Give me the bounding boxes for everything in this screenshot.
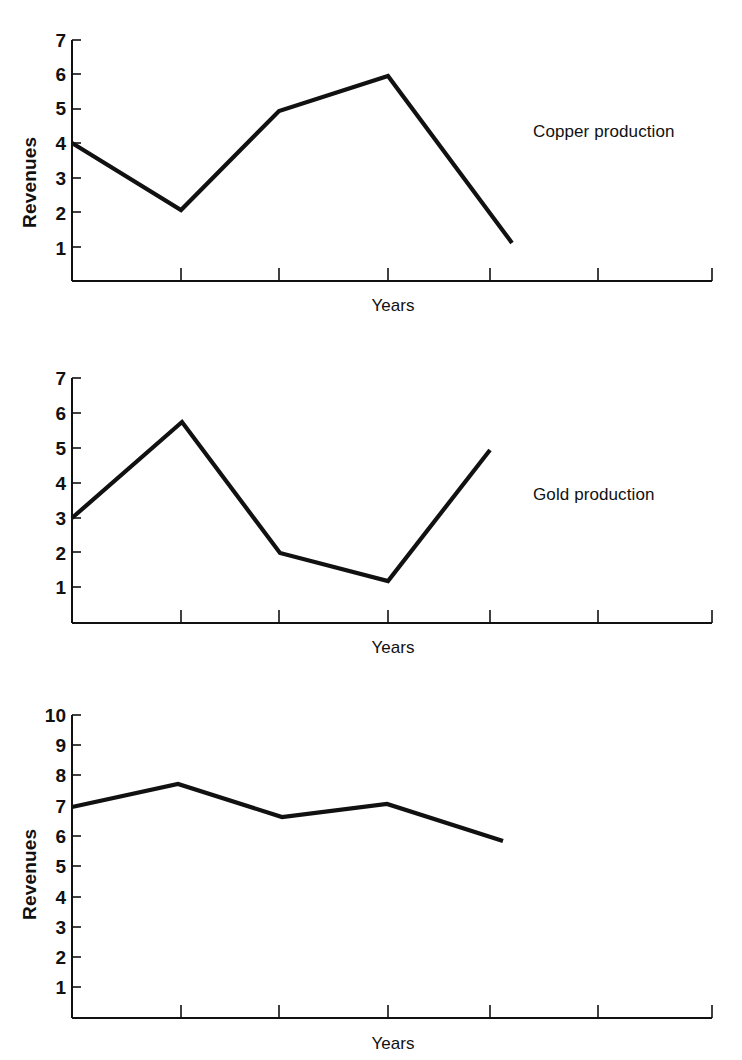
y-tick-label: 2 bbox=[55, 203, 66, 224]
x-axis-title-gold: Years bbox=[372, 638, 415, 657]
chart-panel-combined: Revenues 10 9 8 7 6 5 4 3 2 1 bbox=[0, 670, 742, 1060]
y-tick-label: 3 bbox=[55, 917, 66, 938]
y-axis-title-combined: Revenues bbox=[19, 829, 40, 920]
y-axis-title-copper: Revenues bbox=[19, 137, 40, 228]
y-tick-label: 1 bbox=[55, 577, 66, 598]
y-tick-label: 7 bbox=[55, 796, 66, 817]
x-axis-title-copper: Years bbox=[372, 296, 415, 315]
y-tick-label: 2 bbox=[55, 947, 66, 968]
y-tick-label: 10 bbox=[45, 705, 66, 726]
x-axis-title-combined: Years bbox=[372, 1034, 415, 1053]
figure-page: Revenues 7 6 5 4 3 2 1 bbox=[0, 0, 742, 1060]
series-label-copper: Copper production bbox=[533, 122, 675, 142]
y-tick-label: 1 bbox=[55, 238, 66, 259]
y-tick-label: 6 bbox=[55, 403, 66, 424]
y-tick-label: 5 bbox=[55, 438, 66, 459]
gold-chart-svg: Revenues 7 6 5 4 3 2 1 Year bbox=[0, 340, 742, 670]
y-tick-label: 6 bbox=[55, 64, 66, 85]
y-tick-label: 8 bbox=[55, 765, 66, 786]
y-tick-label: 3 bbox=[55, 168, 66, 189]
chart-panel-copper: Revenues 7 6 5 4 3 2 1 bbox=[0, 0, 742, 340]
y-tick-label: 4 bbox=[55, 133, 66, 154]
chart-panel-gold: Revenues 7 6 5 4 3 2 1 Year bbox=[0, 340, 742, 670]
data-series-copper bbox=[72, 76, 512, 243]
y-tick-label: 6 bbox=[55, 826, 66, 847]
y-tick-label: 1 bbox=[55, 977, 66, 998]
y-tick-label: 5 bbox=[55, 856, 66, 877]
y-tick-label: 9 bbox=[55, 735, 66, 756]
y-tick-label: 4 bbox=[55, 473, 66, 494]
data-series-gold bbox=[72, 422, 490, 581]
combined-chart-svg: Revenues 10 9 8 7 6 5 4 3 2 1 bbox=[0, 670, 742, 1060]
y-tick-label: 3 bbox=[55, 508, 66, 529]
copper-chart-svg: Revenues 7 6 5 4 3 2 1 bbox=[0, 0, 742, 340]
y-tick-label: 4 bbox=[55, 887, 66, 908]
y-tick-label: 5 bbox=[55, 98, 66, 119]
y-tick-label: 7 bbox=[55, 30, 66, 51]
y-tick-label: 7 bbox=[55, 368, 66, 389]
data-series-combined bbox=[72, 784, 503, 841]
y-tick-label: 2 bbox=[55, 543, 66, 564]
series-label-gold: Gold production bbox=[533, 485, 655, 505]
